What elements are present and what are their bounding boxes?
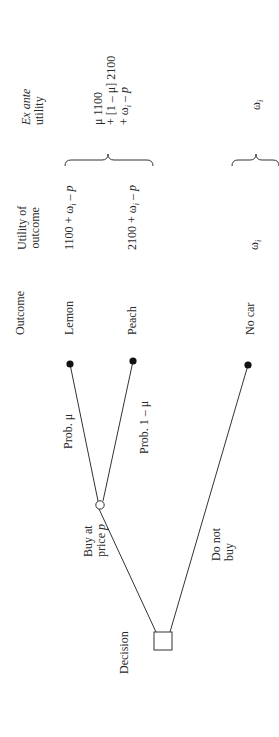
not-buy-branch-label: Do not buy (210, 528, 236, 561)
exante-buy-minus: – (117, 93, 131, 105)
exante-buy-line3: + ωi – p (118, 56, 135, 125)
peach-terminal-dot (129, 357, 136, 364)
utility-nocar-sub: i (254, 240, 263, 242)
utility-peach-base: 2100 + ω (125, 205, 139, 250)
exante-buy-sub: i (124, 105, 133, 107)
not-buy-branch-line (170, 365, 248, 632)
utility-header-line2: outcome (29, 206, 42, 250)
exante-header: Ex ante utility (20, 89, 46, 125)
lemon-prob-label: Prob. μ (62, 414, 75, 449)
nobuy-brace (232, 154, 279, 166)
lemon-prob-text: Prob. μ (61, 414, 75, 449)
buy-branch-label: Buy at price p (82, 524, 108, 557)
decision-node-square (154, 632, 172, 650)
buy-label-price: price (94, 530, 108, 557)
not-buy-label-line2: buy (223, 528, 236, 561)
outcome-header: Outcome (14, 291, 27, 335)
peach-prob-text: Prob. 1 – μ (137, 401, 151, 454)
utility-peach-sub: i (132, 203, 141, 205)
utility-lemon: 1100 + ωi – p (63, 186, 80, 250)
outcome-header-text: Outcome (13, 291, 27, 335)
utility-lemon-p: p (62, 186, 76, 192)
decision-label-text: Decision (117, 631, 131, 674)
utility-lemon-minus: – (62, 192, 76, 204)
exante-nobuy-omega: ω (249, 102, 263, 110)
utility-header: Utility of outcome (16, 206, 42, 250)
utility-lemon-base: 1100 + ω (62, 206, 76, 250)
utility-peach-p: p (125, 185, 139, 191)
exante-buy-p: p (117, 87, 131, 93)
outcome-peach-text: Peach (125, 306, 139, 335)
buy-label-line2: price p (95, 524, 108, 557)
lemon-terminal-dot (66, 360, 73, 367)
exante-buy-omega: + ω (117, 107, 131, 125)
utility-peach: 2100 + ωi – p (126, 185, 143, 250)
peach-prob-label: Prob. 1 – μ (138, 401, 151, 454)
chance-node-circle (96, 501, 104, 509)
exante-nobuy-sub: i (256, 100, 265, 102)
outcome-lemon-text: Lemon (62, 301, 76, 335)
nocar-terminal-dot (244, 361, 251, 368)
exante-buy: μ 1100 + [1 – μ] 2100 + ωi – p (92, 56, 135, 125)
outcome-lemon: Lemon (63, 301, 76, 335)
buy-label-p: p (94, 524, 108, 530)
buy-brace (65, 154, 153, 166)
decision-tree-diagram: Decision Buy at price p Do not buy Prob.… (0, 0, 279, 737)
utility-nocar: ωi (248, 240, 265, 250)
outcome-peach: Peach (126, 306, 139, 335)
utility-peach-minus: – (125, 191, 139, 203)
utility-nocar-omega: ω (247, 242, 261, 250)
peach-branch-line (103, 361, 133, 501)
exante-nobuy: ωi (250, 100, 267, 110)
exante-header-line2: utility (33, 89, 46, 125)
decision-label: Decision (118, 631, 131, 674)
outcome-nocar-text: No car (243, 303, 257, 335)
outcome-nocar: No car (244, 303, 257, 335)
